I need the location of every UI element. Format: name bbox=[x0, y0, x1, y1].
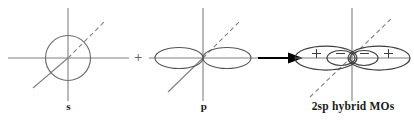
p-orbital-label: p bbox=[146, 100, 262, 112]
hybrid-sign-minus-right bbox=[360, 53, 369, 54]
s-orbital-figure bbox=[0, 0, 137, 110]
hybrid-sign-minus-left bbox=[336, 53, 345, 54]
p-orbital-group: p bbox=[146, 0, 262, 131]
sp-hybrid-figure bbox=[292, 0, 414, 110]
plus-operator: + bbox=[134, 50, 142, 65]
hybrid-sign-plus-right-vertical bbox=[388, 49, 389, 58]
s-orbital-group: s bbox=[0, 0, 137, 131]
sp-hybrid-orbital-label: 2sp hybrid MOs bbox=[292, 100, 414, 112]
s-diagonal-axis-dashed bbox=[68, 20, 106, 58]
p-diagonal-axis-solid bbox=[168, 58, 203, 92]
sp-hybrid-orbital-group: 2sp hybrid MOs bbox=[292, 0, 414, 131]
orbital-hybridization-diagram: s + p bbox=[0, 0, 414, 131]
hybrid-sign-plus-left-vertical bbox=[316, 49, 317, 58]
p-orbital-figure bbox=[146, 0, 262, 110]
s-orbital-label: s bbox=[0, 100, 137, 112]
p-diagonal-axis-dashed bbox=[203, 20, 241, 58]
